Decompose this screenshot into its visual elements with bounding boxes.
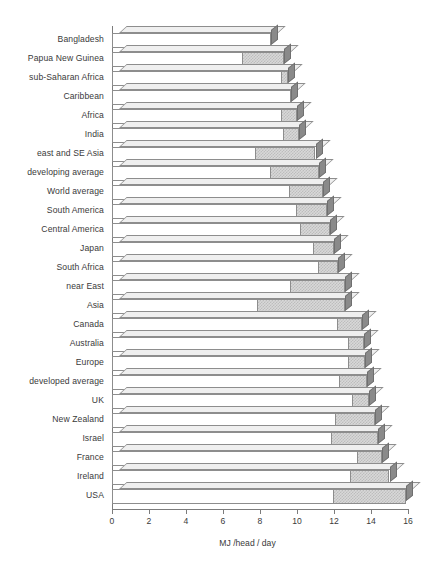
- category-label: east and SE Asia: [0, 144, 108, 163]
- bar-side-face: [291, 81, 298, 101]
- x-tick: [112, 510, 113, 514]
- bar-top-face: [119, 216, 345, 223]
- category-label: near East: [0, 277, 108, 296]
- category-label: Ireland: [0, 467, 108, 486]
- x-tick: [223, 510, 224, 514]
- plot-area: [112, 30, 408, 524]
- bar-top-face: [119, 178, 338, 185]
- bar-top-face: [119, 425, 393, 432]
- bar-top-face: [119, 444, 397, 451]
- bar-top-face: [119, 26, 286, 33]
- category-label: South Africa: [0, 258, 108, 277]
- category-label: Israel: [0, 429, 108, 448]
- bar: [112, 489, 406, 504]
- bar-top-face: [119, 121, 314, 128]
- category-label: Canada: [0, 315, 108, 334]
- x-tick-label: 0: [110, 516, 115, 526]
- category-label: Africa: [0, 106, 108, 125]
- bar-top-face: [119, 406, 389, 413]
- bar-side-face: [365, 347, 372, 367]
- x-tick: [297, 510, 298, 514]
- x-tick: [260, 510, 261, 514]
- category-label: New Zealand: [0, 410, 108, 429]
- category-label: sub-Saharan Africa: [0, 68, 108, 87]
- category-label: India: [0, 125, 108, 144]
- bar-top-face: [119, 45, 299, 52]
- category-label: Asia: [0, 296, 108, 315]
- category-label: Papua New Guinea: [0, 49, 108, 68]
- x-tick-label: 16: [403, 516, 413, 526]
- bar-top-face: [119, 482, 421, 489]
- x-tick-label: 4: [184, 516, 189, 526]
- category-label: Caribbean: [0, 87, 108, 106]
- x-tick: [408, 510, 409, 514]
- bar-top-face: [119, 330, 378, 337]
- bar-segment-upper: [334, 489, 406, 504]
- category-label: Bangladesh: [0, 30, 108, 49]
- bar-row: [112, 486, 408, 505]
- category-label: Central America: [0, 220, 108, 239]
- category-label: UK: [0, 391, 108, 410]
- bar-top-face: [119, 463, 404, 470]
- x-axis-title: MJ /head / day: [0, 538, 433, 548]
- x-tick-label: 6: [221, 516, 226, 526]
- bar-top-face: [119, 254, 352, 261]
- x-tick: [371, 510, 372, 514]
- x-axis-title-text: MJ /head / day: [219, 538, 275, 548]
- category-label: Australia: [0, 334, 108, 353]
- category-label: Japan: [0, 239, 108, 258]
- x-tick: [186, 510, 187, 514]
- x-tick-label: 12: [329, 516, 339, 526]
- bar-top-face: [119, 140, 330, 147]
- category-label: South America: [0, 201, 108, 220]
- category-label: World average: [0, 182, 108, 201]
- bar-top-face: [119, 235, 349, 242]
- bar-segment-lower: [112, 489, 334, 504]
- category-label: Europe: [0, 353, 108, 372]
- bar-top-face: [119, 292, 360, 299]
- x-tick-label: 10: [292, 516, 302, 526]
- category-label: developing average: [0, 163, 108, 182]
- bar-top-face: [119, 159, 334, 166]
- bar-top-face: [119, 83, 306, 90]
- bar-top-face: [119, 102, 312, 109]
- energy-per-head-bar-chart: BangladeshPapua New Guineasub-Saharan Af…: [0, 0, 433, 567]
- bar-top-face: [119, 311, 377, 318]
- x-tick: [149, 510, 150, 514]
- bar-top-face: [119, 273, 360, 280]
- x-tick-label: 2: [147, 516, 152, 526]
- bar-top-face: [119, 197, 341, 204]
- bar-top-face: [119, 368, 382, 375]
- bar-top-face: [119, 387, 384, 394]
- bar-top-face: [119, 64, 303, 71]
- category-label: France: [0, 448, 108, 467]
- x-axis-ticks: 0246810121416: [0, 510, 433, 540]
- x-tick-label: 8: [258, 516, 263, 526]
- x-tick: [334, 510, 335, 514]
- category-label: developed average: [0, 372, 108, 391]
- category-axis-labels: BangladeshPapua New Guineasub-Saharan Af…: [0, 30, 108, 505]
- bar-top-face: [119, 349, 380, 356]
- x-tick-label: 14: [366, 516, 376, 526]
- category-label: USA: [0, 486, 108, 505]
